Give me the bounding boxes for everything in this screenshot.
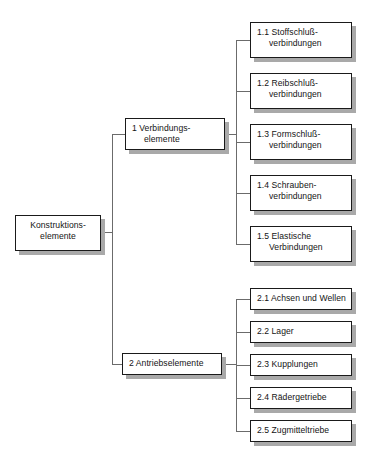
- connector-leaf-1-4: [236, 193, 251, 194]
- branch-1-node-line-1: 1 Verbindungs-: [132, 123, 219, 134]
- root-node[interactable]: Konstruktions- elemente: [15, 215, 101, 251]
- leaf-1-2[interactable]: 1.2 Reibschluß- verbindungen: [250, 73, 352, 109]
- leaf-1-4[interactable]: 1.4 Schrauben- verbindungen: [250, 175, 352, 211]
- leaf-2-2-line-1: 2.2 Lager: [257, 326, 294, 337]
- leaf-1-3[interactable]: 1.3 Formschluß- verbindungen: [250, 124, 352, 160]
- leaf-2-4[interactable]: 2.4 Rädergetriebe: [250, 387, 352, 409]
- leaf-2-1[interactable]: 2.1 Achsen und Wellen: [250, 288, 352, 310]
- connector-root-to-branch-1: [112, 134, 126, 135]
- leaf-1-5-line-1: 1.5 Elastische: [257, 231, 346, 242]
- leaf-1-2-line-1: 1.2 Reibschluß-: [257, 78, 346, 89]
- leaf-2-5[interactable]: 2.5 Zugmitteltriebe: [250, 420, 352, 442]
- connector-leaf-2-2: [236, 332, 251, 333]
- connector-leaf-1-1: [236, 40, 251, 41]
- branch-2-node-line-1: 2 Antriebselemente: [129, 358, 203, 369]
- root-node-line-2: elemente: [21, 231, 95, 242]
- connector-leaf-1-2: [236, 91, 251, 92]
- connector-leaf-2-3: [236, 365, 251, 366]
- connector-leaf-2-4: [236, 398, 251, 399]
- diagram-canvas: Konstruktions- elemente 1 Verbindungs- e…: [0, 0, 366, 468]
- leaf-2-3-line-1: 2.3 Kupplungen: [257, 359, 318, 370]
- leaf-1-1-line-1: 1.1 Stoffschluß-: [257, 27, 346, 38]
- branch-1-node[interactable]: 1 Verbindungs- elemente: [125, 118, 225, 150]
- leaf-2-5-line-1: 2.5 Zugmitteltriebe: [257, 425, 329, 436]
- leaf-1-1-line-2: verbindungen: [257, 38, 346, 49]
- connector-leaf-2-1: [236, 299, 251, 300]
- connector-leaf-1-3: [236, 142, 251, 143]
- connector-leaf-2-5: [236, 431, 251, 432]
- leaf-1-3-line-1: 1.3 Formschluß-: [257, 129, 346, 140]
- leaf-1-5-line-2: Verbindungen: [257, 242, 346, 253]
- leaf-1-1[interactable]: 1.1 Stoffschluß- verbindungen: [250, 22, 352, 58]
- branch-2-node[interactable]: 2 Antriebselemente: [122, 353, 222, 375]
- leaf-1-4-line-1: 1.4 Schrauben-: [257, 180, 346, 191]
- leaf-1-3-line-2: verbindungen: [257, 140, 346, 151]
- leaf-1-4-line-2: verbindungen: [257, 191, 346, 202]
- root-node-line-1: Konstruktions-: [21, 220, 95, 231]
- connector-leaf-1-5: [236, 244, 251, 245]
- leaf-2-2[interactable]: 2.2 Lager: [250, 321, 352, 343]
- leaf-2-4-line-1: 2.4 Rädergetriebe: [257, 392, 327, 403]
- leaf-1-5[interactable]: 1.5 Elastische Verbindungen: [250, 226, 352, 262]
- connector-root-trunk: [112, 134, 113, 365]
- leaf-2-3[interactable]: 2.3 Kupplungen: [250, 354, 352, 376]
- branch-1-node-line-2: elemente: [132, 134, 219, 145]
- leaf-1-2-line-2: verbindungen: [257, 89, 346, 100]
- leaf-2-1-line-1: 2.1 Achsen und Wellen: [257, 293, 346, 304]
